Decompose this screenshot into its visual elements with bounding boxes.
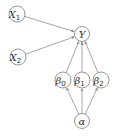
node-beta1: β1 [73,72,90,88]
nodes-layer: X1X2Yβ0β1β2α [8,6,109,129]
edge-x1-to-y [25,16,75,31]
node-label-subscript: 2 [17,57,21,65]
node-x2: X2 [9,49,26,65]
edge-x2-to-y [26,37,75,55]
graphical-model-diagram: X1X2Yβ0β1β2α [0,0,116,136]
edge-beta0-to-y [66,41,79,72]
edge-alpha-to-beta0 [67,88,79,114]
node-y: Y [75,27,90,42]
node-label-subscript: 0 [61,80,65,88]
node-alpha: α [75,114,90,129]
edge-alpha-to-beta2 [85,88,97,114]
edge-beta2-to-y [85,41,98,72]
node-label-main: α [79,116,86,127]
node-label-subscript: 1 [80,80,84,88]
node-x1: X1 [8,6,25,22]
node-label: α [79,116,86,127]
node-beta2: β2 [92,72,109,88]
node-label-subscript: 1 [16,14,20,22]
node-beta0: β0 [54,72,71,88]
node-label-subscript: 2 [99,80,103,88]
